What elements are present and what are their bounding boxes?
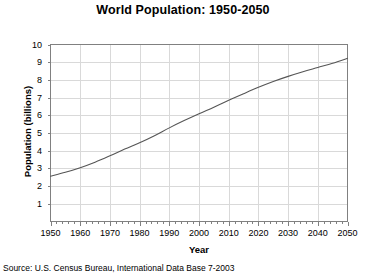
x-tick-label: 2050 — [328, 228, 366, 238]
y-tick-label: 6 — [24, 110, 42, 120]
y-tick-label: 3 — [24, 163, 42, 173]
y-tick-label: 4 — [24, 146, 42, 156]
y-tick-label: 7 — [24, 93, 42, 103]
y-tick-label: 9 — [24, 57, 42, 67]
source-note: Source: U.S. Census Bureau, Internationa… — [3, 263, 235, 273]
y-tick-label: 8 — [24, 75, 42, 85]
y-tick-label: 10 — [24, 40, 42, 50]
y-tick-label: 1 — [24, 199, 42, 209]
y-tick-label: 5 — [24, 128, 42, 138]
y-tick-label: 2 — [24, 181, 42, 191]
x-axis-minor-ticks — [52, 222, 349, 226]
chart-figure: World Population: 1950-2050 Population (… — [0, 0, 366, 274]
